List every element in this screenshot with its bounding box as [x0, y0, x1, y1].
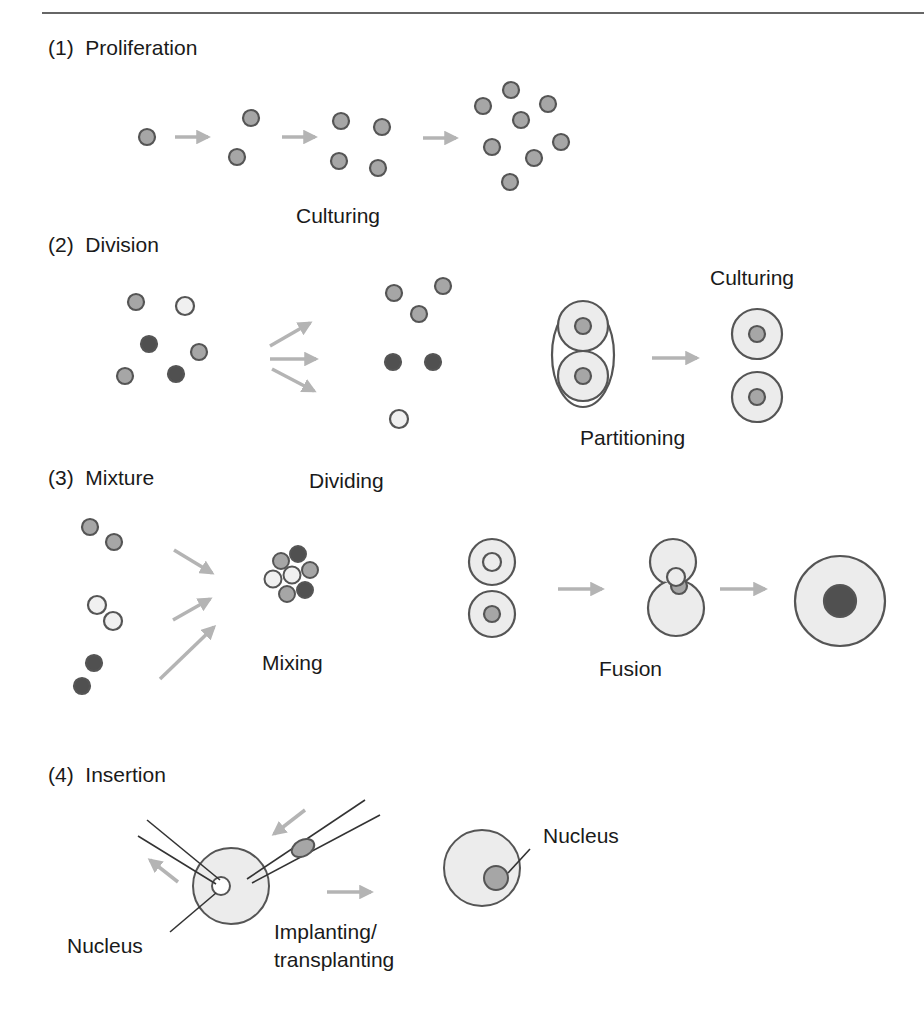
fusion-label: Fusion — [599, 658, 662, 679]
mixing-arrows — [160, 550, 214, 679]
section-title: Insertion — [85, 763, 166, 786]
implanting-label: Implanting/ — [274, 921, 377, 942]
culturing-label-2: Culturing — [710, 267, 794, 288]
section-title: Division — [85, 233, 159, 256]
implanted-cell — [444, 830, 530, 906]
section-4-heading: (4) Insertion — [48, 764, 166, 785]
mixing-label: Mixing — [262, 652, 323, 673]
mixture-source-cells — [74, 519, 122, 694]
section-2-heading: (2) Division — [48, 234, 159, 255]
proliferation-arrows — [175, 137, 456, 138]
section-title: Mixture — [85, 466, 154, 489]
mixed-cell-cluster — [265, 546, 319, 602]
section-number: (3) — [48, 466, 74, 489]
dividing-arrows — [270, 323, 316, 391]
division-sorted-cells — [385, 278, 451, 428]
division-source-cells — [117, 294, 207, 384]
partitioned-cells — [732, 309, 782, 422]
insertion-figure — [138, 800, 380, 932]
nucleus-label-2: Nucleus — [543, 825, 619, 846]
cell-manipulation-diagram: (1) Proliferation (2) Division (3) Mixtu… — [0, 0, 924, 1010]
section-title: Proliferation — [85, 36, 197, 59]
section-number: (2) — [48, 233, 74, 256]
diagram-canvas — [0, 0, 924, 1010]
section-3-heading: (3) Mixture — [48, 467, 154, 488]
transplanting-label: transplanting — [274, 949, 394, 970]
nucleus-label: Nucleus — [67, 935, 143, 956]
section-1-heading: (1) Proliferation — [48, 37, 197, 58]
dividing-label: Dividing — [309, 470, 384, 491]
fused-cell — [795, 556, 885, 646]
fusing-cell — [648, 539, 704, 636]
culturing-label: Culturing — [296, 205, 380, 226]
section-number: (1) — [48, 36, 74, 59]
partitioning-label: Partitioning — [580, 427, 685, 448]
section-number: (4) — [48, 763, 74, 786]
fusion-start-cells — [469, 539, 515, 637]
partitioning-cells — [552, 301, 614, 407]
